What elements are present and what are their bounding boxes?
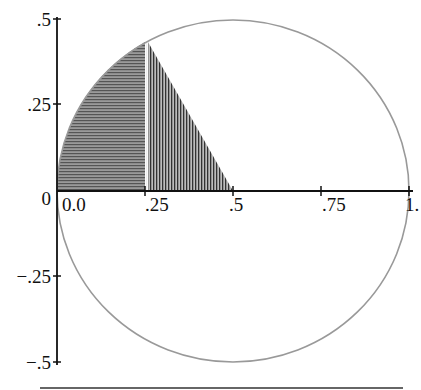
x-tick-label: 0.0 <box>62 194 86 215</box>
y-tick-label: .25 <box>27 94 51 115</box>
x-tick-label: .25 <box>145 194 169 215</box>
segment-region <box>57 42 145 191</box>
chart: .5 .25 0 −.25 −.5 0.0 .25 .5 .75 1. <box>0 0 421 390</box>
x-tick-label: 1. <box>405 194 419 215</box>
triangle-region <box>148 42 233 191</box>
y-tick-label: −.5 <box>26 352 51 373</box>
y-tick-label: 0 <box>42 188 52 209</box>
x-tick-label: .75 <box>322 194 346 215</box>
y-tick-label: −.25 <box>17 266 51 287</box>
x-tick-label: .5 <box>229 194 243 215</box>
y-tick-label: .5 <box>37 9 51 30</box>
